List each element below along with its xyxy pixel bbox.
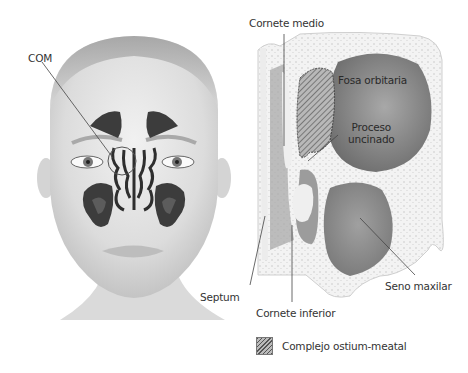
- label-cornete-inferior: Cornete inferior: [256, 307, 335, 319]
- legend: Complejo ostium-meatal: [256, 337, 407, 355]
- hatched-pattern-icon: [256, 337, 273, 355]
- label-proceso-line2: uncinado: [348, 133, 395, 145]
- face-illustration: [37, 36, 231, 320]
- label-seno-maxilar: Seno maxilar: [385, 280, 452, 292]
- label-proceso-line1: Proceso: [348, 121, 395, 133]
- label-fosa-orbitaria: Fosa orbitaria: [338, 74, 407, 86]
- coronal-section-illustration: [258, 32, 443, 297]
- label-proceso-uncinado: Proceso uncinado: [348, 121, 395, 145]
- label-cornete-medio: Cornete medio: [249, 17, 324, 29]
- label-com: COM: [28, 52, 52, 64]
- legend-label: Complejo ostium-meatal: [282, 340, 407, 352]
- anatomy-illustration: [0, 0, 468, 373]
- label-septum: Septum: [200, 291, 240, 303]
